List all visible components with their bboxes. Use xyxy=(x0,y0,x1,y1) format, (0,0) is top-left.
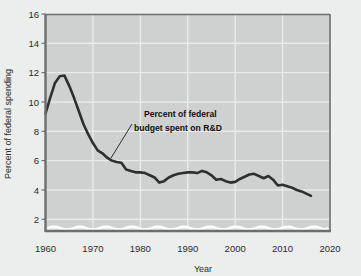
y-tick-label: 8 xyxy=(34,126,39,137)
chart-container: 246810121416 196019701980199020002010202… xyxy=(0,0,361,276)
y-tick-label: 6 xyxy=(34,155,39,166)
rnd-budget-line-chart: 246810121416 196019701980199020002010202… xyxy=(0,0,361,276)
y-tick-label: 2 xyxy=(34,214,39,225)
x-tick-label: 2010 xyxy=(272,243,293,254)
x-axis-title: Year xyxy=(194,264,212,274)
y-tick-label: 14 xyxy=(28,38,39,49)
x-tick-label: 1990 xyxy=(177,243,198,254)
annotation-line-1: Percent of federal xyxy=(144,109,217,119)
annotation-line-2: budget spent on R&D xyxy=(134,123,222,133)
x-tick-label: 2020 xyxy=(319,243,340,254)
y-tick-label: 16 xyxy=(28,9,39,20)
x-tick-label: 2000 xyxy=(225,243,246,254)
y-axis-title: Percent of federal spending xyxy=(3,69,13,179)
x-tick-label: 1980 xyxy=(130,243,151,254)
x-tick-label: 1970 xyxy=(82,243,103,254)
y-tick-label: 12 xyxy=(28,67,39,78)
y-tick-label: 4 xyxy=(34,185,39,196)
x-tick-label: 1960 xyxy=(35,243,56,254)
y-tick-label: 10 xyxy=(28,97,39,108)
